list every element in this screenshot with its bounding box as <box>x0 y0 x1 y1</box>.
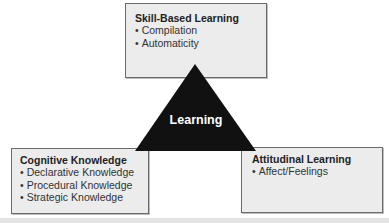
box-title: Skill-Based Learning <box>135 12 266 24</box>
list-item: Automaticity <box>135 37 266 50</box>
cognitive-knowledge-box: Cognitive Knowledge Declarative Knowledg… <box>11 148 149 214</box>
attitudinal-learning-box: Attitudinal Learning Affect/Feelings <box>241 147 383 213</box>
list-item: Compilation <box>135 24 266 37</box>
box-list: Affect/Feelings <box>252 165 382 178</box>
list-item: Procedural Knowledge <box>20 179 148 192</box>
bottom-divider <box>0 218 389 223</box>
list-item: Strategic Knowledge <box>20 191 148 204</box>
box-title: Attitudinal Learning <box>252 153 382 165</box>
list-item: Declarative Knowledge <box>20 166 148 179</box>
list-item: Affect/Feelings <box>252 165 382 178</box>
skill-based-learning-box: Skill-Based Learning Compilation Automat… <box>125 3 267 78</box>
center-label: Learning <box>160 113 232 127</box>
box-list: Declarative Knowledge Procedural Knowled… <box>20 166 148 204</box>
box-title: Cognitive Knowledge <box>20 154 148 166</box>
box-list: Compilation Automaticity <box>135 24 266 49</box>
